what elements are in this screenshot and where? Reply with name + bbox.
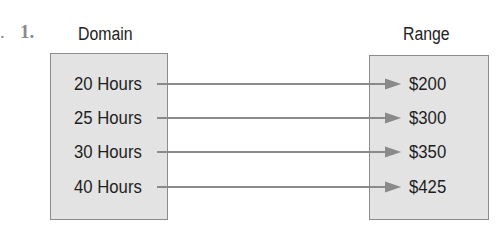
arrowhead-icon [386,80,398,88]
mapping-arrows [0,0,496,231]
arrowhead-icon [386,183,398,191]
arrowhead-icon [386,148,398,156]
arrowhead-icon [386,114,398,122]
